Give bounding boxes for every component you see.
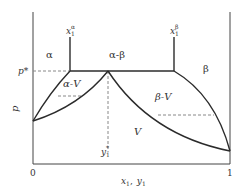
phase-diagram: α α-β β α-V β-V V p* p x1α x1β y1* 0 1 x… [0,0,240,194]
y-axis-label: p [9,105,20,112]
x-axis-label: x1,y1 [121,176,146,187]
region-beta-V-label: β-V [154,91,173,102]
region-V-label: V [134,126,143,137]
region-alpha-beta-label: α-β [109,49,125,60]
x-tick-0: 0 [30,168,36,178]
region-beta-label: β [203,63,209,74]
beta-liquidus-curve [174,71,230,151]
x-tick-1: 1 [227,168,233,178]
region-alpha-label: α [46,49,53,60]
y1-star-label: y1* [100,144,110,158]
region-alpha-V-label: α-V [63,78,82,89]
beta-vapor-curve [108,71,230,151]
p-star-label: p* [18,66,29,76]
x1-beta-label: x1β [170,23,179,37]
x1-alpha-label: x1α [66,23,75,37]
